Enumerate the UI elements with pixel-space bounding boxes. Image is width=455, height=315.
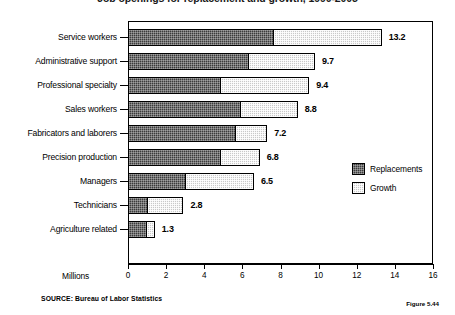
bar-segment-replacements xyxy=(129,102,241,117)
stacked-bar xyxy=(128,77,309,94)
bar-row: 2.8 xyxy=(128,193,202,217)
bar-value-label: 13.2 xyxy=(389,32,406,42)
x-axis-tick xyxy=(395,264,396,269)
legend-swatch xyxy=(352,182,365,194)
stacked-bar xyxy=(128,125,267,142)
stacked-bar xyxy=(128,53,315,70)
category-label-row: Sales workers xyxy=(0,97,128,121)
bar-value-label: 8.8 xyxy=(305,104,317,114)
bar-segment-growth xyxy=(220,150,259,165)
category-label: Agriculture related xyxy=(50,224,120,234)
legend-swatch xyxy=(352,163,365,175)
x-axis: 0246810121416 xyxy=(128,264,433,290)
x-axis-tick-label: 4 xyxy=(202,271,207,280)
bar-value-label: 7.2 xyxy=(274,128,286,138)
category-label: Fabricators and laborers xyxy=(27,128,120,138)
bar-segment-growth xyxy=(273,30,381,45)
x-axis-tick-label: 14 xyxy=(390,271,399,280)
bar-value-label: 1.3 xyxy=(162,224,174,234)
category-label-row: Technicians xyxy=(0,193,128,217)
bar-row: 9.4 xyxy=(128,73,328,97)
bar-segment-growth xyxy=(248,54,314,69)
x-axis-tick-label: 0 xyxy=(126,271,131,280)
category-label: Professional specialty xyxy=(37,80,120,90)
bar-segment-growth xyxy=(147,198,182,213)
x-axis-tick xyxy=(357,264,358,269)
bar-segment-growth xyxy=(240,102,296,117)
bar-segment-replacements xyxy=(129,30,274,45)
x-axis-tick xyxy=(281,264,282,269)
category-tick xyxy=(120,61,128,62)
category-label-row: Professional specialty xyxy=(0,73,128,97)
bar-value-label: 9.7 xyxy=(322,56,334,66)
x-axis-tick-label: 16 xyxy=(428,271,437,280)
stacked-bar xyxy=(128,149,260,166)
bar-segment-replacements xyxy=(129,54,249,69)
stacked-bar xyxy=(128,101,298,118)
category-tick xyxy=(120,205,128,206)
bar-row: 13.2 xyxy=(128,25,405,49)
stacked-bar xyxy=(128,29,382,46)
bar-row: 6.8 xyxy=(128,145,279,169)
legend-label: Replacements xyxy=(370,164,422,174)
page-title: Job openings for replacement and growth,… xyxy=(0,0,455,4)
bar-segment-replacements xyxy=(129,174,186,189)
bar-segment-replacements xyxy=(129,78,221,93)
category-label-row: Managers xyxy=(0,169,128,193)
x-axis-tick-label: 8 xyxy=(278,271,283,280)
bar-segment-replacements xyxy=(129,150,221,165)
bar-segment-growth xyxy=(220,78,309,93)
x-axis-title: Millions xyxy=(62,271,89,281)
category-tick xyxy=(120,157,128,158)
x-axis-tick xyxy=(433,264,434,269)
figure-caption: Figure 5.44 xyxy=(406,300,439,307)
bar-value-label: 6.8 xyxy=(267,152,279,162)
bar-row: 7.2 xyxy=(128,121,286,145)
bar-row: 8.8 xyxy=(128,97,317,121)
bar-segment-growth xyxy=(235,126,267,141)
legend-entry: Growth xyxy=(352,182,422,194)
category-axis: Service workersAdministrative supportPro… xyxy=(0,21,128,264)
bar-segment-growth xyxy=(146,222,154,237)
x-axis-tick-label: 10 xyxy=(314,271,323,280)
category-label-row: Service workers xyxy=(0,25,128,49)
x-axis-tick-label: 12 xyxy=(352,271,361,280)
category-label-row: Agriculture related xyxy=(0,217,128,241)
category-tick xyxy=(120,229,128,230)
legend-label: Growth xyxy=(370,183,396,193)
legend-entry: Replacements xyxy=(352,163,422,175)
x-axis-tick xyxy=(128,264,129,269)
category-label-row: Administrative support xyxy=(0,49,128,73)
category-label: Managers xyxy=(80,176,120,186)
category-tick xyxy=(120,181,128,182)
stacked-bar xyxy=(128,221,155,238)
bar-segment-growth xyxy=(185,174,253,189)
category-label: Administrative support xyxy=(35,56,120,66)
x-axis-tick xyxy=(242,264,243,269)
bar-row: 1.3 xyxy=(128,217,174,241)
category-tick xyxy=(120,109,128,110)
x-axis-tick xyxy=(319,264,320,269)
category-tick xyxy=(120,37,128,38)
bar-segment-replacements xyxy=(129,198,148,213)
category-tick xyxy=(120,85,128,86)
legend: ReplacementsGrowth xyxy=(352,163,422,201)
category-label-row: Precision production xyxy=(0,145,128,169)
x-axis-tick-label: 2 xyxy=(164,271,169,280)
category-tick xyxy=(120,133,128,134)
category-label: Sales workers xyxy=(65,104,120,114)
x-axis-tick-label: 6 xyxy=(240,271,245,280)
category-label-row: Fabricators and laborers xyxy=(0,121,128,145)
bar-segment-replacements xyxy=(129,126,236,141)
category-label: Service workers xyxy=(58,32,120,42)
x-axis-tick xyxy=(166,264,167,269)
bar-value-label: 9.4 xyxy=(316,80,328,90)
category-label: Technicians xyxy=(74,200,120,210)
stacked-bar xyxy=(128,173,254,190)
bar-row: 9.7 xyxy=(128,49,334,73)
category-label: Precision production xyxy=(42,152,120,162)
bar-value-label: 6.5 xyxy=(261,176,273,186)
x-axis-tick xyxy=(204,264,205,269)
source-note: SOURCE: Bureau of Labor Statistics xyxy=(41,295,162,302)
bar-row: 6.5 xyxy=(128,169,273,193)
